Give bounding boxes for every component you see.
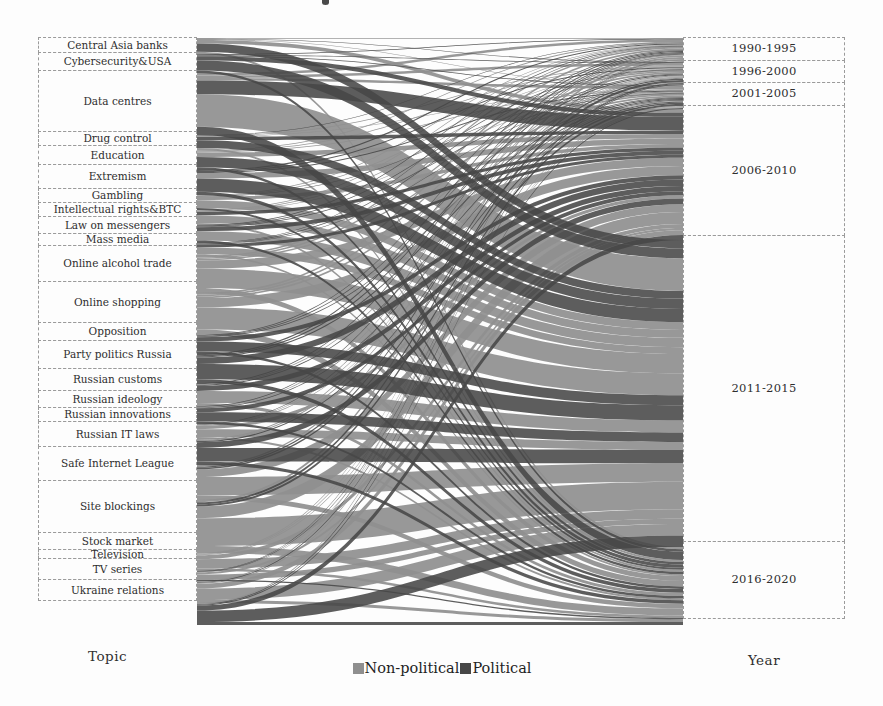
legend: Non-political Political [0, 660, 883, 676]
topic-node: Opposition [38, 322, 197, 341]
node-label: Central Asia banks [67, 40, 168, 51]
non-political-swatch-icon [353, 663, 364, 674]
node-label: Ukraine relations [71, 585, 164, 596]
node-label: Data centres [83, 96, 151, 107]
year-node: 2001-2005 [683, 82, 845, 106]
topic-node: TV series [38, 558, 197, 580]
topic-node: Safe Internet League [38, 446, 197, 481]
node-label: Russian ideology [72, 394, 162, 405]
topic-node: Russian innovations [38, 407, 197, 422]
node-label: TV series [93, 564, 143, 575]
node-label: Gambling [92, 190, 144, 201]
node-label: Mass media [86, 234, 150, 245]
topic-node: Russian customs [38, 368, 197, 391]
node-label: Online shopping [74, 297, 161, 308]
sankey-flows [197, 38, 683, 625]
non-political-flow-ribbon [197, 38, 683, 39]
node-label: 2016-2020 [731, 574, 796, 586]
node-label: 1996-2000 [731, 66, 796, 78]
political-swatch-icon [460, 663, 471, 674]
node-label: Party politics Russia [63, 349, 171, 360]
node-label: Drug control [83, 133, 151, 144]
node-label: Opposition [89, 326, 147, 337]
node-label: Intellectual rights&BTC [54, 204, 182, 215]
node-label: Site blockings [80, 501, 155, 512]
year-node: 2011-2015 [683, 235, 845, 542]
node-label: Law on messengers [65, 220, 170, 231]
legend-label-non-political: Non-political [365, 660, 460, 676]
topic-node: Drug control [38, 131, 197, 146]
topic-node: Party politics Russia [38, 340, 197, 369]
topic-node: Central Asia banks [38, 37, 197, 53]
topic-node: Law on messengers [38, 216, 197, 234]
node-label: 2011-2015 [731, 383, 796, 395]
year-node: 1990-1995 [683, 37, 845, 61]
topic-node: Extremism [38, 164, 197, 189]
node-label: Russian customs [73, 374, 162, 385]
topic-node: Online shopping [38, 281, 197, 323]
political-flow-ribbon [197, 622, 683, 625]
node-label: Television [91, 549, 144, 559]
topic-node: Stock market [38, 532, 197, 550]
node-label: 2001-2005 [731, 88, 796, 100]
topic-node: Data centres [38, 70, 197, 132]
node-label: Extremism [89, 171, 147, 182]
topic-nodes-column: Central Asia banksCybersecurity&USAData … [38, 37, 197, 601]
node-label: Education [91, 150, 145, 161]
year-node: 2016-2020 [683, 541, 845, 619]
node-label: Russian innovations [64, 409, 171, 420]
topic-node: Russian ideology [38, 390, 197, 408]
year-node: 2006-2010 [683, 105, 845, 236]
cropped-title-mark [322, 0, 329, 5]
year-node: 1996-2000 [683, 60, 845, 83]
topic-node: Cybersecurity&USA [38, 52, 197, 71]
topic-node: Gambling [38, 188, 197, 203]
topic-node: Intellectual rights&BTC [38, 202, 197, 217]
year-nodes-column: 1990-19951996-20002001-20052006-20102011… [683, 37, 845, 619]
topic-year-sankey-figure: Central Asia banksCybersecurity&USAData … [0, 0, 883, 706]
node-label: Cybersecurity&USA [64, 56, 172, 67]
legend-label-political: Political [472, 660, 531, 676]
node-label: Online alcohol trade [63, 258, 171, 269]
node-label: Russian IT laws [76, 429, 160, 440]
node-label: Safe Internet League [61, 458, 174, 469]
topic-node: Site blockings [38, 480, 197, 533]
topic-node: Online alcohol trade [38, 245, 197, 282]
topic-node: Russian IT laws [38, 421, 197, 447]
node-label: Stock market [82, 536, 153, 547]
node-label: 1990-1995 [731, 43, 796, 55]
topic-node: Education [38, 145, 197, 165]
topic-node: Ukraine relations [38, 579, 197, 601]
node-label: 2006-2010 [731, 165, 796, 177]
